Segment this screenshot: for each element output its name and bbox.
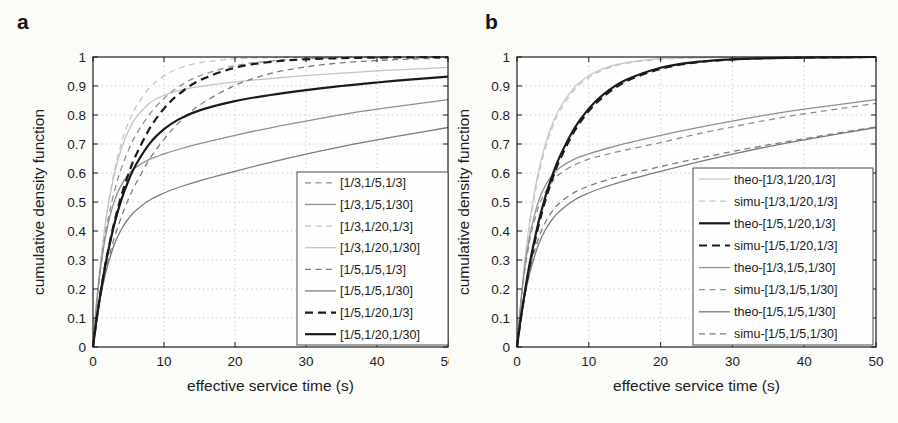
legend-entry-label: [1/3,1/5,1/3]	[340, 176, 406, 190]
x-tick-label: 30	[725, 354, 740, 369]
y-tick-label: 0	[502, 340, 510, 355]
y-tick-label: 0.7	[491, 137, 510, 152]
legend-entry-label: simu-[1/5,1/20,1/3]	[734, 239, 838, 253]
y-tick-label: 0.8	[67, 108, 86, 123]
y-tick-label: 0.3	[491, 253, 510, 268]
y-tick-label: 0.4	[67, 224, 86, 239]
y-axis-label: cumulative density function	[455, 109, 472, 295]
x-tick-label: 10	[156, 354, 171, 369]
y-tick-label: 0.8	[491, 108, 510, 123]
y-tick-label: 0.6	[491, 166, 510, 181]
legend-entry-label: [1/5,1/5,1/3]	[340, 263, 406, 277]
panel-b-chart: 0102030405000.10.20.30.40.50.60.70.80.91…	[449, 0, 898, 423]
legend-entry-label: theo-[1/5,1/20,1/3]	[734, 217, 835, 231]
y-tick-label: 0.2	[67, 282, 86, 297]
y-tick-label: 0.1	[67, 311, 86, 326]
x-tick-label: 50	[440, 354, 449, 369]
x-tick-label: 40	[369, 354, 384, 369]
y-tick-label: 1	[78, 50, 86, 65]
legend-entry-label: simu-[1/3,1/5,1/30]	[734, 283, 838, 297]
y-tick-label: 0.7	[67, 137, 86, 152]
y-tick-label: 0.3	[67, 253, 86, 268]
y-tick-label: 0.2	[491, 282, 510, 297]
legend-entry-label: [1/5,1/20,1/3]	[340, 306, 413, 320]
figure-canvas: a b 0102030405000.10.20.30.40.50.60.70.8…	[0, 0, 898, 423]
x-axis-label: effective service time (s)	[613, 377, 780, 394]
x-tick-label: 0	[89, 354, 97, 369]
legend-entry-label: theo-[1/3,1/5,1/30]	[734, 261, 835, 275]
y-tick-label: 0.9	[491, 79, 510, 94]
x-tick-label: 30	[298, 354, 313, 369]
x-tick-label: 20	[653, 354, 668, 369]
x-tick-label: 50	[868, 354, 883, 369]
legend-entry-label: theo-[1/3,1/20,1/3]	[734, 173, 835, 187]
y-tick-label: 0.9	[67, 79, 86, 94]
legend-entry-label: [1/5,1/20,1/30]	[340, 328, 420, 342]
x-tick-label: 20	[227, 354, 242, 369]
legend-entry-label: simu-[1/5,1/5,1/30]	[734, 327, 838, 341]
y-tick-label: 0	[78, 340, 86, 355]
y-tick-label: 0.5	[491, 195, 510, 210]
legend-entry-label: [1/3,1/5,1/30]	[340, 198, 413, 212]
panel-a-chart: 0102030405000.10.20.30.40.50.60.70.80.91…	[0, 0, 449, 423]
legend-entry-label: theo-[1/5,1/5,1/30]	[734, 305, 835, 319]
y-tick-label: 0.1	[491, 311, 510, 326]
y-tick-label: 0.6	[67, 166, 86, 181]
y-axis-label: cumulative density function	[30, 109, 47, 295]
legend-entry-label: simu-[1/3,1/20,1/3]	[734, 195, 838, 209]
x-tick-label: 0	[513, 354, 521, 369]
x-axis-label: effective service time (s)	[187, 377, 354, 394]
y-tick-label: 1	[502, 50, 510, 65]
y-tick-label: 0.4	[491, 224, 510, 239]
legend-entry-label: [1/3,1/20,1/30]	[340, 241, 420, 255]
x-tick-label: 40	[797, 354, 812, 369]
x-tick-label: 10	[581, 354, 596, 369]
legend-entry-label: [1/5,1/5,1/30]	[340, 284, 413, 298]
legend-entry-label: [1/3,1/20,1/3]	[340, 220, 413, 234]
y-tick-label: 0.5	[67, 195, 86, 210]
